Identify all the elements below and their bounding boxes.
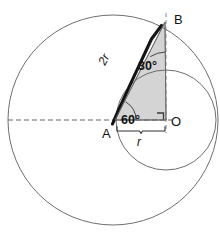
point-b-label: B: [174, 12, 183, 27]
geometry-diagram: B 2r 30° 60° O A r: [0, 0, 220, 232]
diagram-background: [0, 0, 220, 232]
point-o-label: O: [171, 114, 181, 129]
angle-30-label: 30°: [138, 59, 157, 73]
point-a-label: A: [102, 126, 111, 141]
angle-60-label: 60°: [121, 113, 140, 127]
